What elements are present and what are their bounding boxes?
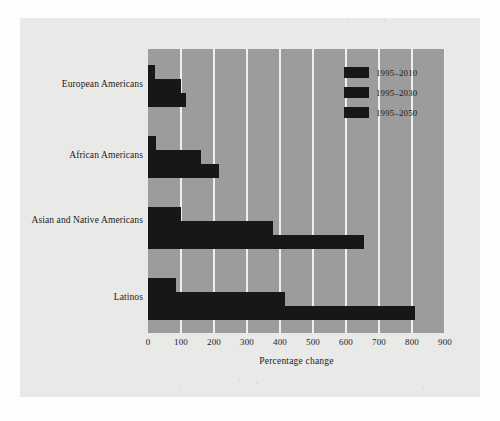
- legend-item: 1995–2050: [344, 103, 417, 122]
- scan-speckle: [238, 380, 240, 382]
- plot-area: 1995–2010 1995–2030 1995–2050: [148, 49, 445, 333]
- bar: [148, 164, 219, 178]
- legend-swatch-1995-2030: [344, 87, 369, 98]
- gridline-500: [312, 49, 313, 333]
- y-axis-label-1: African Americans: [23, 150, 143, 161]
- y-axis-label-3: Latinos: [23, 292, 143, 303]
- bar: [148, 207, 181, 221]
- legend-swatch-1995-2010: [344, 67, 369, 78]
- bar: [148, 79, 181, 93]
- bar: [148, 93, 186, 107]
- gridline-400: [279, 49, 280, 333]
- scan-speckle: [348, 19, 350, 21]
- legend-label-1995-2050: 1995–2050: [376, 108, 417, 118]
- legend-label-1995-2010: 1995–2010: [376, 68, 417, 78]
- legend-label-1995-2030: 1995–2030: [376, 88, 417, 98]
- scan-speckle: [180, 389, 182, 391]
- bar: [148, 278, 176, 292]
- bar: [148, 221, 273, 235]
- legend-item: 1995–2030: [344, 83, 417, 102]
- y-axis-label-2: Asian and Native Americans: [23, 215, 143, 226]
- bar: [148, 292, 285, 306]
- screenshot-root: 1995–2010 1995–2030 1995–2050 European A…: [0, 0, 500, 421]
- scan-speckle: [384, 20, 386, 22]
- gridline-900: [444, 49, 445, 333]
- legend-item: 1995–2010: [344, 63, 417, 82]
- bar-chart: 1995–2010 1995–2030 1995–2050 European A…: [20, 18, 480, 397]
- legend-swatch-1995-2050: [344, 107, 369, 118]
- chart-legend: 1995–2010 1995–2030 1995–2050: [344, 63, 417, 123]
- bar: [148, 65, 155, 79]
- scan-speckle: [256, 382, 258, 384]
- bar: [148, 306, 415, 320]
- gridline-300: [246, 49, 247, 333]
- bar: [148, 136, 156, 150]
- bar: [148, 235, 364, 249]
- gridline-200: [213, 49, 214, 333]
- scan-speckle: [422, 386, 424, 388]
- y-axis-label-0: European Americans: [23, 79, 143, 90]
- x-tick-900: 900: [425, 337, 465, 347]
- x-axis-title: Percentage change: [148, 356, 445, 366]
- bar: [148, 150, 201, 164]
- scanned-page: 1995–2010 1995–2030 1995–2050 European A…: [20, 18, 480, 397]
